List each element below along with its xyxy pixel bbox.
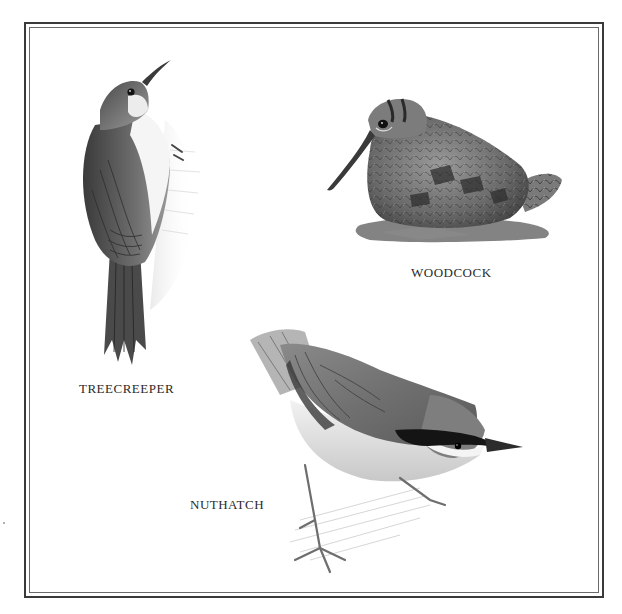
bird-illustrations bbox=[0, 0, 622, 614]
nuthatch-drawing bbox=[250, 329, 523, 572]
nuthatch-label: NUTHATCH bbox=[190, 497, 264, 513]
woodcock-label: WOODCOCK bbox=[411, 265, 492, 281]
treecreeper-label: TREECREEPER bbox=[79, 381, 174, 397]
treecreeper-drawing bbox=[83, 60, 200, 365]
woodcock-drawing bbox=[327, 99, 562, 242]
